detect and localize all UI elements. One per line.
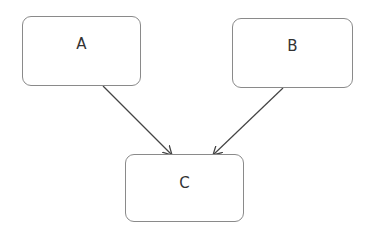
node-b-label: B <box>233 37 352 55</box>
node-c-label: C <box>126 174 243 192</box>
node-b[interactable]: B <box>232 18 353 88</box>
node-a[interactable]: A <box>22 16 141 86</box>
edge-a-to-c <box>103 86 172 155</box>
edge-b-to-c <box>213 88 283 155</box>
node-c[interactable]: C <box>125 154 244 222</box>
node-a-label: A <box>23 35 140 53</box>
